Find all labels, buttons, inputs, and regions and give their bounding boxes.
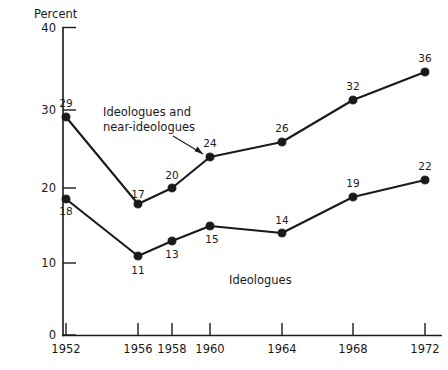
x-tick-label-1956: 1956 bbox=[123, 342, 152, 356]
series-line-upper bbox=[66, 72, 425, 204]
data-point-upper-1960 bbox=[206, 153, 214, 161]
series-ideologues bbox=[62, 176, 429, 260]
data-label-upper-1960: 24 bbox=[203, 137, 217, 149]
series-annotation-lower: Ideologues bbox=[229, 273, 292, 287]
data-label-lower-1952: 18 bbox=[59, 205, 72, 217]
data-label-lower-1960: 15 bbox=[205, 233, 218, 245]
series-annotation-upper-line1: Ideologues and bbox=[103, 105, 191, 119]
y-tick-labels-group: 40 30 20 10 0 bbox=[41, 21, 56, 342]
data-point-lower-1960 bbox=[206, 222, 214, 230]
data-point-upper-1956 bbox=[134, 200, 142, 208]
series-line-lower bbox=[66, 180, 425, 256]
data-point-lower-1968 bbox=[349, 193, 357, 201]
annotation-arrowhead-upper-icon bbox=[195, 147, 204, 154]
x-tick-label-1952: 1952 bbox=[51, 342, 80, 356]
y-axis-title: Percent bbox=[34, 7, 78, 21]
data-label-lower-1968: 19 bbox=[346, 177, 359, 189]
data-point-lower-1972 bbox=[421, 176, 429, 184]
data-point-lower-1964 bbox=[278, 229, 286, 237]
data-label-lower-1958: 13 bbox=[165, 248, 178, 260]
x-tick-label-1972: 1972 bbox=[410, 342, 439, 356]
x-tick-label-1968: 1968 bbox=[338, 342, 367, 356]
series-annotation-upper-line2: near-ideologues bbox=[103, 120, 195, 134]
series-ideologues-and-near-ideologues bbox=[62, 68, 429, 208]
data-point-lower-1958 bbox=[168, 237, 176, 245]
x-tick-label-1964: 1964 bbox=[267, 342, 296, 356]
y-tick-marks-group bbox=[63, 28, 76, 336]
data-label-upper-1964: 26 bbox=[275, 122, 289, 134]
data-point-upper-1964 bbox=[278, 138, 286, 146]
y-tick-label-40: 40 bbox=[41, 21, 56, 35]
data-point-lower-1956 bbox=[134, 252, 142, 260]
x-tick-marks-group bbox=[66, 323, 425, 336]
y-tick-label-30: 30 bbox=[41, 103, 56, 117]
data-label-lower-1972: 22 bbox=[418, 160, 431, 172]
data-label-upper-1952: 29 bbox=[59, 97, 72, 109]
data-point-upper-1958 bbox=[168, 184, 176, 192]
x-tick-labels-group: 1952 1956 1958 1960 1964 1968 1972 bbox=[51, 342, 439, 356]
y-tick-label-0: 0 bbox=[49, 328, 56, 342]
data-point-upper-1972 bbox=[421, 68, 429, 76]
x-tick-label-1960: 1960 bbox=[195, 342, 224, 356]
data-label-lower-1956: 11 bbox=[131, 264, 144, 276]
x-tick-label-1958: 1958 bbox=[157, 342, 186, 356]
data-point-lower-1952 bbox=[62, 195, 70, 203]
y-tick-label-10: 10 bbox=[41, 256, 56, 270]
data-point-upper-1968 bbox=[349, 96, 357, 104]
series-annotation-upper: Ideologues and near-ideologues bbox=[103, 105, 203, 154]
series-annotation-lower-line1: Ideologues bbox=[229, 273, 292, 287]
data-label-upper-1958: 20 bbox=[165, 169, 178, 181]
line-chart: Percent 40 30 20 10 0 1952 1956 1958 196… bbox=[0, 0, 448, 370]
data-point-upper-1952 bbox=[62, 113, 70, 121]
data-label-upper-1968: 32 bbox=[346, 80, 359, 92]
y-tick-label-20: 20 bbox=[41, 181, 56, 195]
data-label-upper-1972: 36 bbox=[418, 52, 432, 64]
data-label-upper-1956: 17 bbox=[131, 188, 144, 200]
chart-container: Percent 40 30 20 10 0 1952 1956 1958 196… bbox=[0, 0, 448, 370]
data-label-lower-1964: 14 bbox=[275, 214, 289, 226]
